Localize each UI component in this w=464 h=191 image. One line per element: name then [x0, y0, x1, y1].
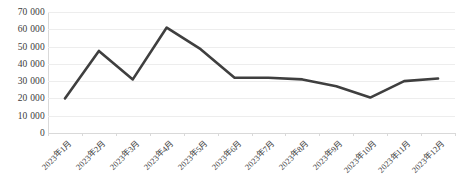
y-axis-tick-label: 50 000 [0, 42, 45, 52]
series-polyline [65, 28, 438, 99]
x-axis-tick [285, 133, 286, 136]
x-axis-tick [184, 133, 185, 136]
y-axis-tick-label: 70 000 [0, 7, 45, 17]
x-axis-tick [353, 133, 354, 136]
x-axis-tick [455, 133, 456, 136]
y-axis-tick-label: 40 000 [0, 59, 45, 69]
x-axis-tick [218, 133, 219, 136]
x-axis-tick [48, 133, 49, 136]
y-axis-tick-label: 60 000 [0, 24, 45, 34]
x-axis-tick [116, 133, 117, 136]
line-chart-figure: 010 00020 00030 00040 00050 00060 00070 … [0, 0, 464, 191]
x-axis-tick [387, 133, 388, 136]
x-axis-tick [252, 133, 253, 136]
y-axis-tick-label: 20 000 [0, 93, 45, 103]
x-axis-tick [421, 133, 422, 136]
x-axis-tick [319, 133, 320, 136]
x-axis-tick [150, 133, 151, 136]
y-axis-tick-label: 10 000 [0, 111, 45, 121]
y-axis-tick-label: 0 [0, 128, 45, 138]
y-axis-tick-label: 30 000 [0, 76, 45, 86]
x-axis-tick [82, 133, 83, 136]
